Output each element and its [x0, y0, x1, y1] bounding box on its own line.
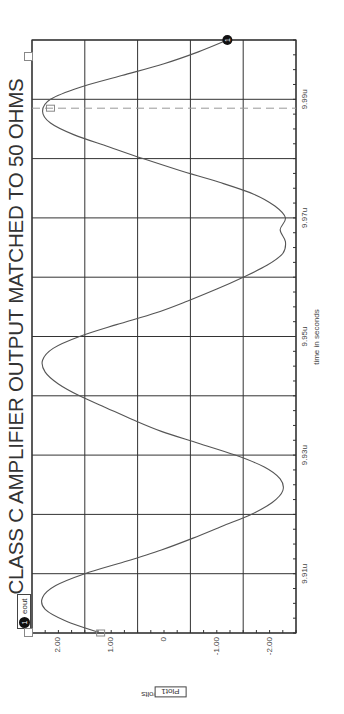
x-tick-label: 9.93u: [300, 445, 309, 465]
y-tick-label: -2.00: [265, 637, 274, 667]
plot-label-box[interactable]: Plot1: [154, 686, 186, 697]
legend-item-eout[interactable]: 1 eout: [17, 594, 31, 629]
cursor-square-icon[interactable]: [24, 628, 33, 637]
rotated-chart: CLASS C AMPLIFIER OUTPUT MATCHED TO 50 O…: [0, 0, 344, 714]
y-tick-label: 1.00: [106, 637, 115, 667]
y-tick-label: 0: [159, 637, 168, 667]
x-tick-label: 9.91u: [300, 564, 309, 584]
cursor-square-icon[interactable]: [24, 52, 33, 61]
series-end-marker-label: 1: [224, 38, 231, 42]
plot-area[interactable]: 1: [32, 40, 296, 633]
x-axis-label: time in seconds: [312, 309, 321, 365]
chart-title: CLASS C AMPLIFIER OUTPUT MATCHED TO 50 O…: [4, 40, 28, 633]
plot-svg: 1: [32, 40, 296, 633]
y-tick-label: -1.00: [212, 637, 221, 667]
x-tick-label: 9.99u: [300, 89, 309, 109]
chart-stage: CLASS C AMPLIFIER OUTPUT MATCHED TO 50 O…: [0, 0, 344, 714]
x-tick-label: 9.95u: [300, 326, 309, 346]
legend-label: eout: [20, 598, 29, 614]
legend-marker-icon: 1: [19, 617, 30, 628]
y-tick-label: 2.00: [53, 637, 62, 667]
x-tick-label: 9.97u: [300, 208, 309, 228]
